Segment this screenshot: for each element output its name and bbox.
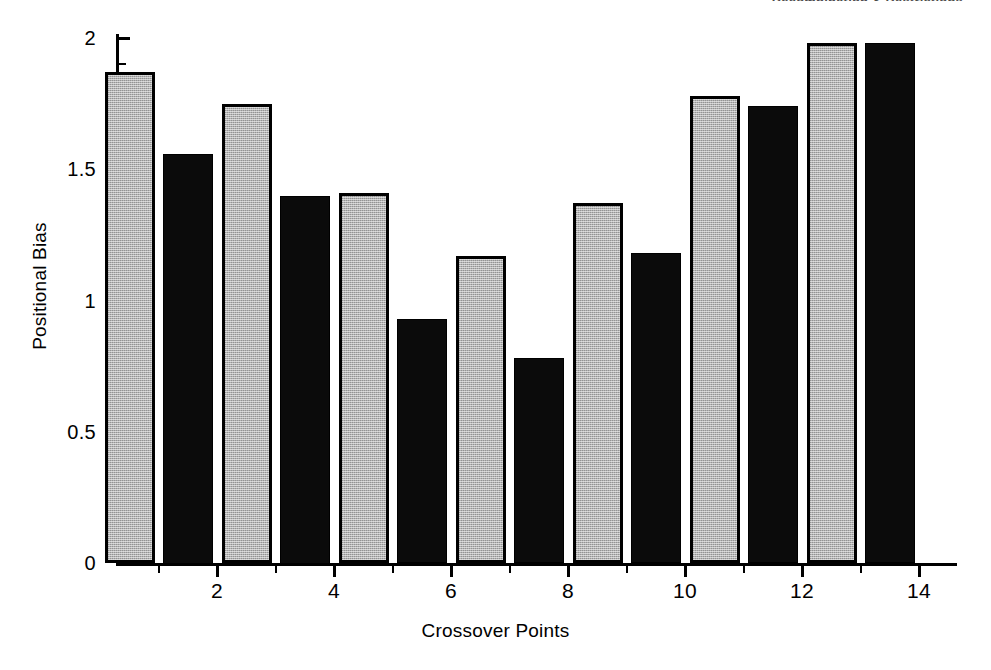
x-tick-major [918, 566, 921, 577]
x-tick-label: 8 [538, 580, 598, 602]
x-tick-minor [860, 566, 862, 573]
x-tick-major [216, 566, 219, 577]
x-tick-label: 14 [889, 580, 949, 602]
x-tick-major [684, 566, 687, 577]
bar [105, 72, 155, 563]
bar [280, 196, 330, 564]
bar [222, 104, 272, 563]
x-tick-minor [275, 566, 277, 573]
y-tick-label: 0 [36, 553, 96, 573]
x-tick-major [333, 566, 336, 577]
x-tick-minor [626, 566, 628, 573]
bar [397, 319, 447, 563]
y-axis-title: Positional Bias [29, 76, 51, 496]
x-tick-label: 4 [304, 580, 364, 602]
y-tick-label: 2 [36, 28, 96, 48]
x-tick-major [450, 566, 453, 577]
bar [631, 253, 681, 563]
bar-chart-figure: 00.511.52 2468101214 Positional Bias Cro… [0, 0, 991, 670]
x-tick-label: 10 [655, 580, 715, 602]
bar [865, 43, 915, 563]
x-axis-line [116, 563, 957, 566]
y-tick-major [119, 37, 130, 40]
y-tick-minor [119, 63, 126, 65]
bar [807, 43, 857, 563]
bar [163, 154, 213, 564]
bar [456, 256, 506, 563]
x-tick-label: 6 [421, 580, 481, 602]
x-tick-minor [158, 566, 160, 573]
bar [339, 193, 389, 563]
bar [514, 358, 564, 563]
x-tick-minor [743, 566, 745, 573]
x-axis-title: Crossover Points [0, 620, 991, 642]
x-tick-major [567, 566, 570, 577]
x-tick-minor [509, 566, 511, 573]
x-tick-label: 2 [187, 580, 247, 602]
bar [748, 106, 798, 563]
bar [690, 96, 740, 563]
x-tick-label: 12 [772, 580, 832, 602]
x-tick-minor [392, 566, 394, 573]
bar [573, 203, 623, 563]
x-tick-major [801, 566, 804, 577]
